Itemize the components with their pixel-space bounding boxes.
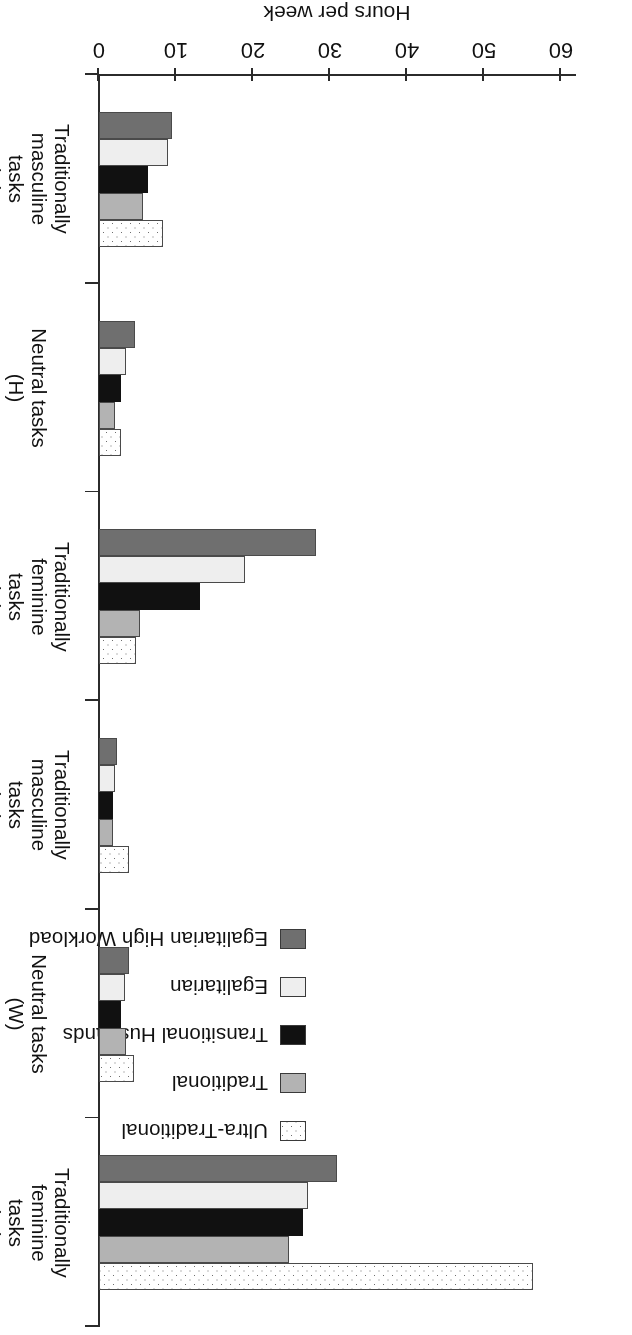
value-axis-tick-label: 60 (531, 37, 591, 63)
bar (99, 321, 135, 348)
bar (99, 1001, 121, 1028)
bar (99, 1182, 308, 1209)
bar-group (0, 284, 632, 493)
bar (99, 947, 129, 974)
bar (99, 792, 113, 819)
chart-figure: Ultra-TraditionalTraditionalTransitional… (0, 0, 632, 1335)
bar (99, 610, 140, 637)
plot-area: 0102030405060 Traditionally feminine tas… (0, 0, 632, 1335)
category-axis-label: Neutral tasks (H) (0, 328, 87, 448)
bar (99, 193, 143, 220)
bar (99, 1028, 126, 1055)
bar (99, 819, 113, 846)
bar (99, 637, 136, 664)
bar (99, 1263, 533, 1290)
bar (99, 556, 245, 583)
bar (99, 583, 200, 610)
bar (99, 765, 115, 792)
value-axis-tick-label: 30 (300, 37, 360, 63)
bar-group (0, 75, 632, 284)
chart-root: Ultra-TraditionalTraditionalTransitional… (0, 0, 632, 1335)
bar (99, 402, 115, 429)
value-axis-tick-label: 50 (454, 37, 514, 63)
bar (99, 1155, 337, 1182)
bar-group (0, 492, 632, 701)
bar (99, 112, 172, 139)
category-axis-label: Traditionally feminine tasks (W) (0, 1163, 87, 1283)
bar (99, 220, 163, 247)
bar (99, 429, 121, 456)
value-axis-tick-label: 20 (223, 37, 283, 63)
bar (99, 1209, 303, 1236)
bar-group (0, 910, 632, 1119)
value-axis-tick-label: 10 (146, 37, 206, 63)
bar (99, 846, 129, 873)
bar (99, 738, 117, 765)
bar (99, 348, 126, 375)
bar-group (0, 701, 632, 910)
value-axis-tick-label: 40 (377, 37, 437, 63)
value-axis-tick-label: 0 (69, 37, 129, 63)
bar-group (0, 1118, 632, 1327)
category-axis-label: Traditionally feminine tasks (H) (0, 537, 87, 657)
value-axis-title: Hours per week (42, 1, 632, 25)
category-axis-label: Neutral tasks (W) (0, 954, 87, 1074)
category-axis-label: Traditionally masculine tasks (W) (0, 745, 87, 865)
bar (99, 166, 148, 193)
bar (99, 974, 125, 1001)
bar (99, 529, 316, 556)
category-axis-label: Traditionally masculine tasks (H) (0, 119, 87, 239)
bar (99, 1055, 134, 1082)
bar (99, 139, 168, 166)
bar (99, 375, 121, 402)
bar (99, 1236, 289, 1263)
